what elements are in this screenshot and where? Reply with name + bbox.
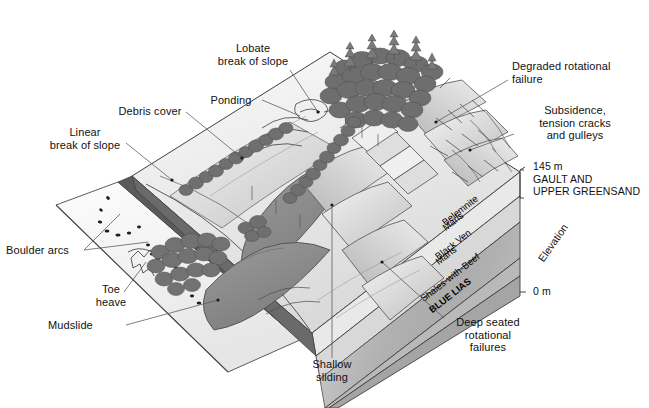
annotation-boulder-arcs: Boulder arcs xyxy=(6,244,86,257)
elevation-top-value: 145 m xyxy=(533,160,583,173)
strat-label-gault-line2: UPPER GREENSAND xyxy=(533,185,649,197)
annotation-debris-cover: Debris cover xyxy=(110,105,190,118)
annotation-linear-break-of-slope: Linear break of slope xyxy=(42,126,128,151)
elevation-bottom-value: 0 m xyxy=(533,285,573,298)
elevation-bracket xyxy=(520,170,524,198)
elevation-ticks xyxy=(520,167,526,292)
elevation-axis-label: Elevation xyxy=(535,221,570,263)
strat-label-gault-line1: GAULT AND xyxy=(533,173,643,185)
annotation-shallow-sliding: Shallow sliding xyxy=(294,358,370,383)
annotation-degraded-rotational-failure: Degraded rotational failure xyxy=(512,60,642,85)
figure-canvas: Belemnite Marls Black Ven Marls Shales-w… xyxy=(0,0,649,408)
annotation-mudslide: Mudslide xyxy=(48,319,124,332)
annotation-toe-heave: Toe heave xyxy=(90,283,132,308)
annotation-subsidence-tension-cracks: Subsidence, tension cracks and gulleys xyxy=(512,104,638,142)
annotation-lobate-break-of-slope: Lobate break of slope xyxy=(198,42,308,67)
annotation-ponding: Ponding xyxy=(198,94,264,107)
annotation-deep-seated-rotational-failures: Deep seated rotational failures xyxy=(440,316,536,354)
